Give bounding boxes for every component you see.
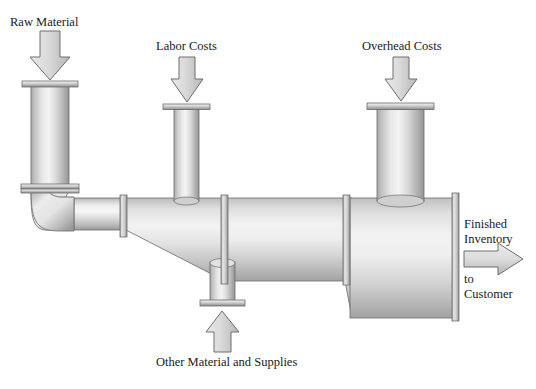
pipe-elbow-left (31, 190, 74, 231)
flange-horizontal-joint-3 (343, 195, 350, 285)
label-other-material-and-supplies: Other Material and Supplies (156, 355, 297, 370)
flange-other-material-inlet (200, 300, 245, 306)
label-labor-costs: Labor Costs (156, 39, 217, 54)
label-raw-material: Raw Material (10, 15, 78, 30)
pipe-vertical-overhead-costs (377, 109, 424, 207)
label-finished-inventory: Finished Inventory (464, 217, 513, 247)
pipe-horizontal-narrow (72, 198, 126, 230)
arrow-down-raw-material (30, 31, 70, 80)
pipe-vertical-raw-material (31, 86, 69, 192)
arrow-down-overhead-costs (385, 57, 417, 101)
arrow-down-labor-costs (171, 57, 203, 102)
arrow-up-other-material (206, 311, 239, 352)
label-finished-inventory-line1: Finished (464, 217, 513, 232)
label-finished-inventory-line2: Inventory (464, 232, 513, 247)
pipe-vertical-labor-costs (174, 109, 199, 205)
pipeline-illustration (0, 0, 536, 389)
flange-horizontal-joint-2 (221, 195, 228, 284)
label-to-customer: to Customer (464, 272, 513, 302)
label-overhead-costs: Overhead Costs (362, 39, 442, 54)
arrow-right-finished-inventory (464, 243, 523, 275)
flange-overhead-costs-inlet (367, 103, 434, 110)
flange-horizontal-joint-1 (120, 195, 127, 237)
label-to-customer-line2: Customer (464, 287, 513, 302)
diagram-canvas: Raw Material Labor Costs Overhead Costs … (0, 0, 536, 389)
flange-outlet-end (452, 193, 459, 321)
pipe-horizontal-mid (225, 198, 345, 281)
label-to-customer-line1: to (464, 272, 513, 287)
flange-raw-material-inlet (22, 81, 78, 87)
flange-labor-costs-inlet (163, 104, 210, 110)
flange-left-vertical-lower (21, 184, 79, 193)
pipe-horizontal-large (350, 198, 455, 318)
